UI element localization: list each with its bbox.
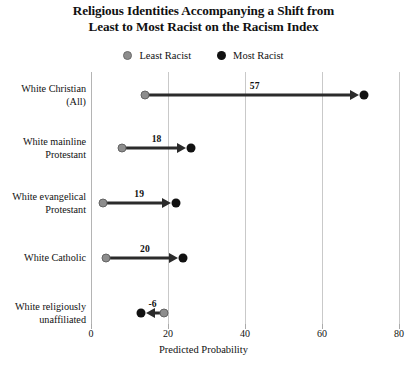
data-point-least-racist xyxy=(102,254,111,263)
category-label-line: Protestant xyxy=(23,148,86,161)
data-point-least-racist xyxy=(98,199,107,208)
category-label-line: White Christian xyxy=(21,83,86,96)
category-label-line: unaffiliated xyxy=(15,313,86,326)
change-value-label: -6 xyxy=(149,298,157,309)
change-value-label: 20 xyxy=(140,243,150,254)
y-axis-line xyxy=(91,72,92,324)
change-arrow-head xyxy=(146,308,155,318)
category-label-line: (All) xyxy=(21,95,86,108)
change-value-label: 18 xyxy=(152,133,162,144)
change-arrow-head xyxy=(162,198,171,208)
category-label-line: White evangelical xyxy=(12,191,86,204)
data-point-most-racist xyxy=(187,144,196,153)
data-point-least-racist xyxy=(140,91,149,100)
category-label-line: White mainline xyxy=(23,136,86,149)
x-tick-label-0: 0 xyxy=(89,328,94,339)
change-arrow-head xyxy=(177,143,186,153)
x-axis-title: Predicted Probability xyxy=(0,344,407,355)
category-label: White mainlineProtestant xyxy=(23,136,86,161)
gridline-80 xyxy=(399,72,400,324)
category-label: White Catholic xyxy=(24,252,86,265)
change-arrow-shaft xyxy=(109,257,169,260)
category-label-line: Protestant xyxy=(12,203,86,216)
category-label-line: White religiously xyxy=(15,301,86,314)
change-arrow-head xyxy=(350,90,359,100)
category-label: White Christian(All) xyxy=(21,83,86,108)
data-point-most-racist xyxy=(179,254,188,263)
change-value-label: 57 xyxy=(250,80,260,91)
x-tick-label-20: 20 xyxy=(163,328,173,339)
data-point-most-racist xyxy=(137,309,146,318)
change-value-label: 19 xyxy=(134,188,144,199)
data-point-most-racist xyxy=(171,199,180,208)
racism-index-dumbbell-chart: Religious Identities Accompanying a Shif… xyxy=(0,0,407,365)
data-point-most-racist xyxy=(360,91,369,100)
x-tick-label-40: 40 xyxy=(240,328,250,339)
change-arrow-head xyxy=(169,253,178,263)
category-label: White evangelicalProtestant xyxy=(12,191,86,216)
gridline-40 xyxy=(245,72,246,324)
data-point-least-racist xyxy=(117,144,126,153)
change-arrow-shaft xyxy=(125,147,177,150)
category-label-line: White Catholic xyxy=(24,252,86,265)
x-tick-label-80: 80 xyxy=(394,328,404,339)
change-arrow-shaft xyxy=(106,202,162,205)
category-label: White religiouslyunaffiliated xyxy=(15,301,86,326)
gridline-60 xyxy=(322,72,323,324)
data-point-least-racist xyxy=(160,309,169,318)
change-arrow-shaft xyxy=(148,94,350,97)
x-tick-label-60: 60 xyxy=(317,328,327,339)
plot-area: 020406080White Christian(All)57White mai… xyxy=(0,0,407,365)
